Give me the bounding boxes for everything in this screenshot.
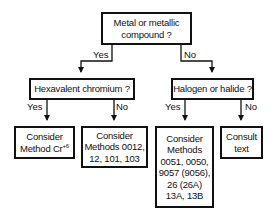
node-root-line: compound ?: [121, 29, 171, 41]
node-methods-b-line: 0051, 0050,: [161, 156, 209, 168]
node-methods-b-line: Consider: [166, 133, 202, 145]
node-methods-b-line: 13A, 13B: [166, 190, 204, 202]
node-hexavalent: Hexavalent chromium ?: [29, 78, 135, 100]
edge-label-no: No: [116, 102, 128, 112]
edge-label-no: No: [184, 50, 196, 60]
node-cr6-line: Method Cr+6: [20, 143, 69, 155]
edge-label-yes: Yes: [27, 102, 43, 112]
node-cr6-line: Consider: [26, 131, 62, 143]
node-cr6-method: Method Cr: [20, 143, 63, 154]
node-methods-b-line: 9057 (9056),: [159, 167, 210, 179]
node-methods-b-line: Methods: [167, 144, 202, 156]
node-methods-a-line: Consider: [96, 130, 132, 142]
edge-label-yes: Yes: [165, 102, 181, 112]
node-halogen-line: Halogen or halide ?: [173, 83, 252, 95]
node-cr6: Consider Method Cr+6: [14, 126, 75, 159]
node-cr6-superscript: +6: [63, 142, 69, 148]
node-methods-a-line: 12, 101, 103: [89, 153, 139, 165]
node-root: Metal or metallic compound ?: [101, 12, 192, 45]
node-methods-a-line: Methods 0012,: [84, 141, 144, 153]
node-hexavalent-line: Hexavalent chromium ?: [34, 83, 130, 95]
flowchart: Metal or metallic compound ? Yes No Hexa…: [0, 0, 278, 219]
node-methods-b: Consider Methods 0051, 0050, 9057 (9056)…: [155, 126, 214, 208]
node-methods-b-line: 26 (26A): [167, 179, 202, 191]
edge-label-no: No: [245, 102, 257, 112]
node-halogen: Halogen or halide ?: [171, 78, 254, 100]
node-methods-a: Consider Methods 0012, 12, 101, 103: [81, 126, 148, 168]
node-consult: Consult text: [220, 126, 263, 159]
node-root-line: Metal or metallic: [114, 17, 180, 29]
node-consult-line: Consult: [226, 131, 257, 143]
node-consult-line: text: [234, 143, 249, 155]
edge-label-yes: Yes: [93, 50, 109, 60]
